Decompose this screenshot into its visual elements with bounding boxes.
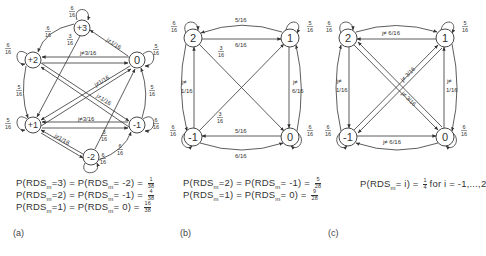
edge-label-diag-2-0: 3 16 bbox=[218, 45, 224, 58]
node-plus2: +2 bbox=[28, 55, 38, 65]
svg-text:6: 6 bbox=[172, 20, 175, 26]
svg-text:6: 6 bbox=[6, 42, 9, 48]
panel-c-diagram: 2 1 -1 0 6 16 5 16 6 16 6 16 j≠ 6/16 j≠ … bbox=[325, 20, 468, 150]
svg-text:16: 16 bbox=[149, 91, 155, 97]
svg-text:5: 5 bbox=[150, 84, 153, 90]
edge-label-minus2-minus1: 6 16 bbox=[117, 143, 123, 156]
edge-label-top-arc: 5/16 bbox=[235, 17, 247, 23]
edge-label-diag-2: j≠ 3/16 bbox=[400, 90, 418, 108]
svg-text:16: 16 bbox=[153, 124, 159, 130]
edge-label-right-b: 6/16 bbox=[292, 88, 304, 94]
node-1: 1 bbox=[442, 32, 448, 44]
loop-label-1: 5 16 bbox=[307, 20, 313, 33]
node-minus1: -1 bbox=[188, 131, 198, 143]
svg-text:16: 16 bbox=[5, 49, 11, 55]
svg-text:16: 16 bbox=[218, 52, 224, 58]
edge-label-diag-m1-1: 3 16 bbox=[217, 111, 223, 124]
loop-label-2: 6 16 bbox=[326, 20, 332, 33]
svg-text:6: 6 bbox=[171, 124, 174, 130]
node-minus1: -1 bbox=[133, 120, 141, 130]
edge-label-left-b: 1/16 bbox=[336, 87, 348, 93]
edge-label-zero-minus1: 5 16 bbox=[149, 84, 155, 97]
svg-text:5: 5 bbox=[6, 117, 9, 123]
svg-text:6: 6 bbox=[154, 117, 157, 123]
svg-text:16: 16 bbox=[461, 131, 467, 137]
edge-label-plus2-zero: j≠3/16 bbox=[79, 50, 97, 56]
svg-text:16: 16 bbox=[153, 50, 159, 56]
edge-label-zero-plus3: j≠1/16 bbox=[105, 36, 123, 51]
edge-label-right-a: j≠ bbox=[446, 78, 452, 84]
node-zero: 0 bbox=[134, 54, 140, 66]
svg-text:3: 3 bbox=[218, 111, 221, 117]
loop-label-plus3: 6 16 bbox=[69, 5, 75, 18]
svg-text:16: 16 bbox=[101, 136, 107, 142]
svg-text:6: 6 bbox=[327, 20, 330, 26]
caption-a: (a) bbox=[13, 228, 24, 238]
svg-text:16: 16 bbox=[67, 40, 73, 46]
caption-c: (c) bbox=[328, 228, 339, 238]
node-0: 0 bbox=[287, 131, 293, 143]
formula-b-2: P(RDSm=1) = P(RDSm= 0) = 928 bbox=[183, 189, 318, 202]
svg-text:6: 6 bbox=[326, 124, 329, 130]
loop-label-zero: 5 16 bbox=[153, 43, 159, 56]
svg-text:5: 5 bbox=[154, 43, 157, 49]
loop-label-1: 5 16 bbox=[462, 20, 468, 33]
edge-label-left-b: 1/16 bbox=[181, 88, 193, 94]
panel-a-diagram: +3 +2 0 +1 -1 -2 6 16 6 16 5 16 5 16 6 bbox=[5, 5, 159, 173]
formula-c-1: P(RDSm= i) = 14 for i = -1,...,2 bbox=[360, 178, 486, 191]
svg-text:16: 16 bbox=[217, 118, 223, 124]
edge-label-diag-1: j≠ 3/16 bbox=[399, 65, 417, 83]
svg-text:16: 16 bbox=[171, 27, 177, 33]
edge-label-bottom-straight: 5/16 bbox=[235, 128, 247, 134]
caption-b: (b) bbox=[180, 228, 191, 238]
node-plus3: +3 bbox=[77, 23, 87, 33]
svg-text:6: 6 bbox=[101, 152, 104, 158]
loop-label-minus1: 6 16 bbox=[170, 124, 176, 137]
loop-label-plus2: 6 16 bbox=[5, 42, 11, 55]
loop-label-minus1: 6 16 bbox=[153, 117, 159, 130]
loop-label-2: 6 16 bbox=[171, 20, 177, 33]
formula-a-3: P(RDSm=1) = P(RDSm= 0) = 1638 bbox=[16, 201, 151, 214]
svg-text:6: 6 bbox=[118, 143, 121, 149]
edge-label-plus2-plus1: 5 16 bbox=[16, 84, 22, 97]
node-minus2: -2 bbox=[87, 152, 95, 162]
edge-label-bottom: j≠ 6/16 bbox=[382, 139, 402, 145]
svg-text:6: 6 bbox=[70, 5, 73, 11]
edge-label-plus3-plus1: 3 16 bbox=[67, 33, 73, 46]
svg-text:3: 3 bbox=[68, 33, 71, 39]
svg-text:16: 16 bbox=[100, 159, 106, 165]
svg-text:16: 16 bbox=[16, 91, 22, 97]
edge-label-bottom-arc: 6/16 bbox=[235, 153, 247, 159]
svg-text:16: 16 bbox=[69, 12, 75, 18]
edge-label-left-a: j≠ bbox=[336, 78, 342, 84]
edge-label-minus2-zero: 3 16 bbox=[101, 129, 107, 142]
svg-text:5: 5 bbox=[463, 20, 466, 26]
formula-a-1: P(RDSm=3) = P(RDSm= -2) = 138 bbox=[16, 177, 154, 190]
svg-text:3: 3 bbox=[219, 45, 222, 51]
loop-label-0: 6 16 bbox=[461, 124, 467, 137]
svg-text:16: 16 bbox=[462, 27, 468, 33]
svg-text:5: 5 bbox=[308, 20, 311, 26]
svg-text:16: 16 bbox=[5, 124, 11, 130]
loop-label-plus1: 5 16 bbox=[5, 117, 11, 130]
node-2: 2 bbox=[345, 32, 351, 44]
loop-label-0: 6 16 bbox=[307, 124, 313, 137]
svg-text:16: 16 bbox=[170, 131, 176, 137]
edge-label-plus3-plus2: 6 16 bbox=[45, 25, 51, 38]
svg-text:16: 16 bbox=[117, 150, 123, 156]
node-1: 1 bbox=[287, 32, 293, 44]
edge-label-plus1-minus1: j≠3/16 bbox=[77, 116, 95, 122]
svg-text:5: 5 bbox=[17, 84, 20, 90]
edge-label-top-straight: 6/16 bbox=[235, 42, 247, 48]
svg-text:16: 16 bbox=[307, 27, 313, 33]
formula-b-1: P(RDSm=2) = P(RDSm= -1) = 528 bbox=[183, 177, 321, 190]
svg-text:3: 3 bbox=[102, 129, 105, 135]
node-2: 2 bbox=[190, 32, 196, 44]
panel-b-diagram: 2 1 -1 0 6 16 5 16 6 16 6 16 5/16 6/16 3 bbox=[170, 17, 313, 159]
svg-text:6: 6 bbox=[462, 124, 465, 130]
edge-label-minus2-plus1: j≠1/16 bbox=[53, 132, 72, 146]
edge-label-diag-1: j≠1/16 bbox=[93, 74, 111, 89]
edge-label-right-b: 1/16 bbox=[446, 87, 458, 93]
edge-label-left-a: j≠ bbox=[181, 79, 187, 85]
